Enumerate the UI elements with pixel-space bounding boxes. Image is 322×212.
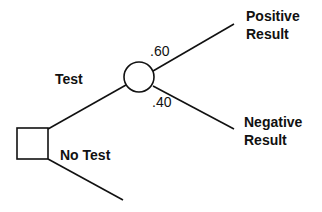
- positive-result-label-line2: Result: [246, 26, 289, 42]
- negative-result-label-line1: Negative: [244, 114, 302, 130]
- test-branch-line: [48, 85, 126, 129]
- positive-result-label-line1: Positive: [246, 8, 300, 24]
- no-test-branch-line: [48, 159, 123, 200]
- decision-tree-diagram: Test No Test .60 .40 Positive Result Neg…: [0, 0, 322, 212]
- chance-node-circle: [124, 62, 154, 92]
- test-label: Test: [55, 71, 83, 87]
- negative-probability-label: .40: [152, 94, 171, 110]
- negative-result-label-line2: Result: [244, 132, 287, 148]
- positive-probability-label: .60: [150, 43, 169, 59]
- decision-node-square: [17, 128, 48, 159]
- no-test-label: No Test: [60, 147, 110, 163]
